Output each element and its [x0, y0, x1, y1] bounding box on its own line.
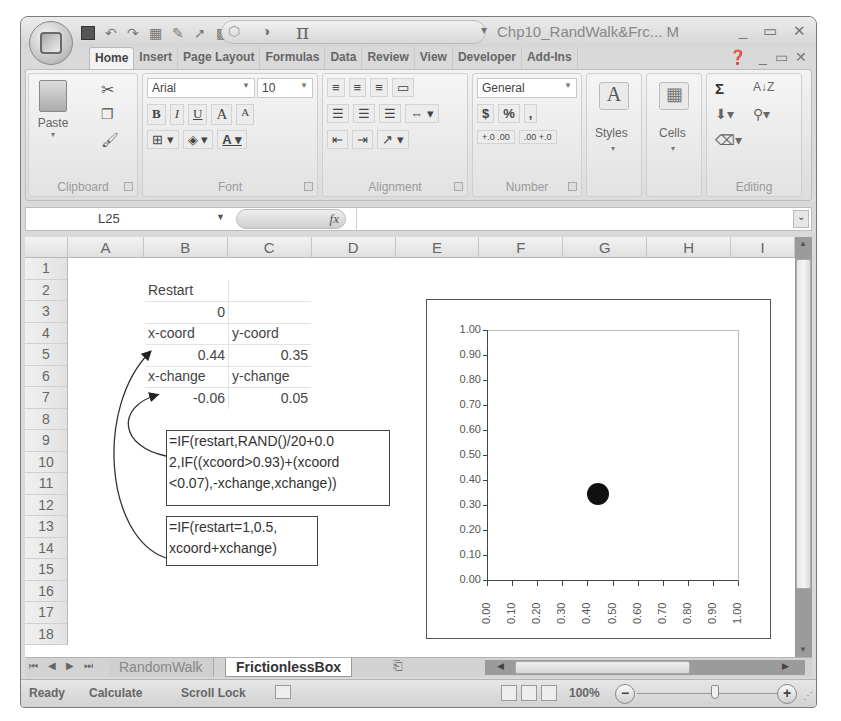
autosum-icon[interactable]: Σ [715, 80, 724, 97]
first-sheet-icon[interactable]: ⏮ [29, 660, 38, 672]
office-button[interactable] [29, 21, 73, 65]
insert-function-button[interactable]: fx [330, 211, 339, 227]
align-bottom-icon[interactable]: ≡ [370, 78, 388, 97]
tab-page-layout[interactable]: Page Layout [178, 47, 260, 69]
italic-button[interactable]: I [170, 104, 184, 125]
contrast-icon[interactable]: ◑ [262, 23, 270, 39]
calendar-icon[interactable]: ▦ [149, 25, 162, 41]
expand-formula-bar-icon[interactable]: ⌄ [793, 210, 809, 228]
shrink-font-button[interactable]: A [236, 104, 254, 125]
sort-filter-icon[interactable]: A↓Z [753, 80, 774, 94]
minimize-button[interactable]: _ [739, 22, 747, 39]
cut-icon[interactable]: ✂ [101, 80, 114, 99]
column-header-h[interactable]: H [647, 237, 731, 257]
zoom-level[interactable]: 100% [569, 686, 600, 700]
macro-record-icon[interactable] [275, 685, 291, 699]
pi-icon[interactable]: π [296, 20, 309, 44]
merge-center-icon[interactable]: ⇔ ▾ [405, 104, 439, 123]
horizontal-scrollbar[interactable]: ◀ ▶ [485, 660, 805, 675]
number-launcher[interactable] [568, 182, 577, 191]
underline-button[interactable]: U [188, 104, 207, 125]
xchange-formula-textbox[interactable]: =IF(restart,RAND()/20+0.0 2,IF((xcoord>0… [166, 430, 390, 506]
align-middle-icon[interactable]: ≡ [349, 78, 367, 97]
borders-icon[interactable]: ⊞ ▾ [147, 130, 179, 149]
tab-formulas[interactable]: Formulas [260, 47, 325, 69]
align-left-icon[interactable]: ☰ [327, 104, 349, 123]
increase-indent-icon[interactable]: ⇥ [352, 130, 373, 149]
decrease-indent-icon[interactable]: ⇤ [327, 130, 348, 149]
vertical-scrollbar[interactable]: ▲ ▼ [795, 237, 812, 657]
column-header-i[interactable]: I [731, 237, 795, 257]
ball-data-point[interactable] [587, 483, 609, 505]
decrease-decimal-button[interactable]: .00 +.0 [519, 130, 557, 144]
fill-icon[interactable]: ⬇▾ [715, 106, 734, 122]
cursor-icon[interactable]: ➚ [194, 25, 206, 41]
align-right-icon[interactable]: ☰ [379, 104, 401, 123]
font-name-select[interactable]: Arial▼ [147, 78, 255, 98]
wrap-text-icon[interactable]: ▭ [392, 78, 414, 97]
tab-data[interactable]: Data [325, 47, 362, 69]
normal-view-button[interactable] [501, 685, 517, 701]
zoom-slider-track[interactable] [637, 693, 777, 694]
comma-button[interactable]: , [524, 104, 538, 123]
scroll-up-icon[interactable]: ▲ [799, 239, 807, 248]
vertical-scroll-thumb[interactable] [796, 259, 811, 589]
chevron-down-icon[interactable]: ▼ [216, 212, 225, 222]
last-sheet-icon[interactable]: ⏭ [84, 660, 93, 672]
pencil-icon[interactable]: ✎ [172, 25, 184, 41]
percent-button[interactable]: % [498, 104, 520, 123]
tab-add-ins[interactable]: Add-Ins [522, 47, 578, 69]
name-box[interactable]: L25 [26, 208, 186, 230]
next-sheet-icon[interactable]: ▶ [66, 660, 74, 672]
redo-icon[interactable]: ↷ [127, 25, 139, 41]
customize-qat-icon[interactable]: ▾ [481, 23, 487, 37]
maximize-button[interactable]: ▭ [763, 22, 777, 40]
workbook-minimize-button[interactable]: _ [759, 49, 767, 65]
number-format-select[interactable]: General▼ [477, 78, 577, 98]
tab-home[interactable]: Home [89, 47, 134, 69]
undo-icon[interactable]: ↶ [105, 25, 117, 41]
xcoord-formula-textbox[interactable]: =IF(restart=1,0.5, xcoord+xchange) [166, 516, 318, 566]
sheet-tab-frictionlessbox[interactable]: FrictionlessBox [225, 658, 352, 677]
insert-sheet-icon[interactable]: ⎗ [393, 659, 403, 673]
page-layout-view-button[interactable] [521, 685, 537, 701]
tab-view[interactable]: View [415, 47, 453, 69]
fill-color-icon[interactable]: ◈ ▾ [183, 130, 214, 149]
tab-insert[interactable]: Insert [134, 47, 178, 69]
alignment-launcher[interactable] [454, 182, 463, 191]
worksheet-grid[interactable]: A B C D E F G H I 1 2 3 4 5 6 7 8 9 10 1… [25, 237, 795, 657]
currency-button[interactable]: $ [477, 104, 494, 123]
scroll-left-icon[interactable]: ◀ [497, 661, 504, 671]
column-header-g[interactable]: G [563, 237, 647, 257]
workbook-restore-button[interactable]: ▭ [775, 49, 788, 65]
bold-button[interactable]: B [147, 104, 166, 125]
cells-button[interactable]: ▦ Cells ▾ [646, 73, 702, 197]
scroll-right-icon[interactable]: ▶ [782, 661, 789, 671]
tab-review[interactable]: Review [362, 47, 414, 69]
paste-button[interactable]: Paste ▾ [35, 80, 71, 140]
format-painter-icon[interactable]: 🖌 [101, 132, 119, 148]
horizontal-scroll-thumb[interactable] [515, 661, 690, 674]
resize-grip-icon[interactable]: ⋰ [803, 690, 813, 701]
scatter-chart[interactable]: 1.00 0.90 0.80 0.70 0.60 0.50 0.40 0.30 … [426, 299, 771, 639]
save-icon[interactable] [81, 26, 95, 40]
font-size-select[interactable]: 10▼ [257, 78, 313, 98]
column-header-f[interactable]: F [479, 237, 563, 257]
increase-decimal-button[interactable]: +.0 .00 [477, 130, 515, 144]
styles-button[interactable]: A Styles ▾ [586, 73, 642, 197]
page-break-view-button[interactable] [541, 685, 557, 701]
zoom-slider-knob[interactable] [711, 685, 719, 699]
zoom-in-button[interactable]: + [777, 684, 797, 704]
close-button[interactable]: ✕ [793, 22, 806, 40]
font-color-icon[interactable]: A ▾ [217, 130, 247, 149]
orientation-icon[interactable]: ↗ ▾ [377, 130, 409, 149]
align-top-icon[interactable]: ≡ [327, 78, 345, 97]
font-launcher[interactable] [304, 182, 313, 191]
clipboard-launcher[interactable] [124, 182, 133, 191]
tab-developer[interactable]: Developer [453, 47, 522, 69]
prev-sheet-icon[interactable]: ◀ [48, 660, 56, 672]
scroll-down-icon[interactable]: ▼ [799, 645, 807, 654]
clear-icon[interactable]: ⌫▾ [715, 132, 742, 148]
grow-font-button[interactable]: A [211, 104, 232, 125]
zoom-out-button[interactable]: − [615, 684, 635, 704]
